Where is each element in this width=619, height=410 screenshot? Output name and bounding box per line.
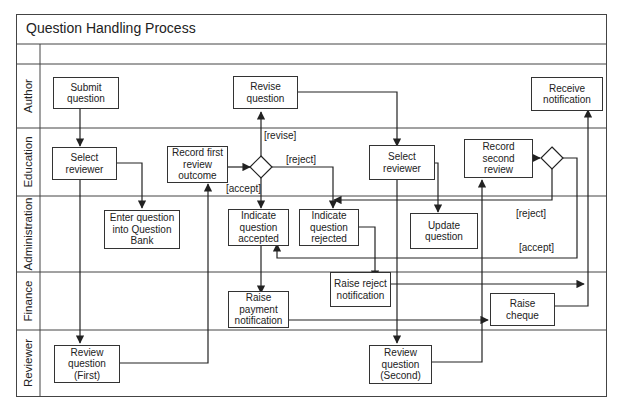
- first-review-decision: [250, 156, 272, 178]
- node-raise-cheque: Raise cheque: [490, 293, 555, 326]
- guard-revise: [revise]: [264, 130, 296, 141]
- node-raise-reject-notification: Raise reject notification: [330, 272, 391, 307]
- node-revise-question: Revise question: [233, 76, 298, 109]
- node-review-question-second: Review question (Second): [369, 345, 432, 384]
- node-indicate-accepted: Indicate question accepted: [228, 209, 289, 246]
- second-review-decision: [541, 147, 563, 169]
- node-select-reviewer-1: Select reviewer: [52, 147, 117, 180]
- guard-reject-first: [reject]: [286, 154, 316, 165]
- node-record-second-review: Record second review: [464, 139, 533, 178]
- node-update-question: Update question: [410, 213, 478, 249]
- node-raise-payment-notification: Raise payment notification: [228, 291, 289, 328]
- node-enter-question-bank: Enter question into Question Bank: [104, 210, 180, 249]
- node-review-question-first: Review question (First): [54, 345, 120, 383]
- node-receive-notification: Receive notification: [531, 77, 603, 111]
- node-indicate-rejected: Indicate question rejected: [299, 209, 359, 246]
- node-submit-question: Submit question: [53, 77, 119, 109]
- guard-accept-second: [accept]: [519, 242, 554, 253]
- guard-reject-second: [reject]: [516, 208, 546, 219]
- node-record-first-review: Record first review outcome: [167, 146, 228, 183]
- node-select-reviewer-2: Select reviewer: [369, 145, 435, 180]
- activity-diagram: Question Handling Process Author Educati…: [0, 0, 619, 410]
- guard-accept-first: [accept]: [226, 183, 261, 194]
